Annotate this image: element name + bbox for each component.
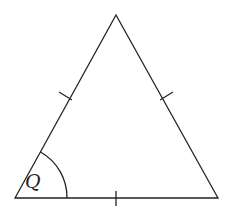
tick-mark-right-side	[160, 92, 173, 100]
triangle-outline	[15, 15, 218, 198]
triangle-figure: Q	[0, 0, 238, 210]
triangle-diagram: Q	[0, 0, 238, 210]
tick-mark-left-side	[59, 92, 72, 100]
angle-label: Q	[25, 170, 41, 192]
angle-arc	[41, 152, 68, 198]
